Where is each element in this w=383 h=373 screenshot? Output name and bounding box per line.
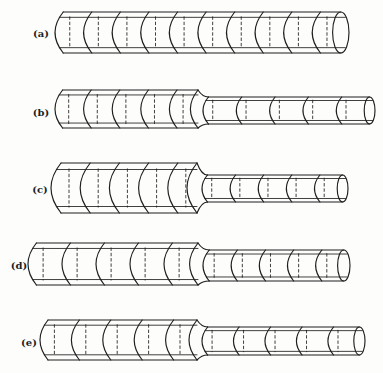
rod-c	[51, 163, 348, 213]
element-divider-arc	[203, 250, 209, 281]
row-label-c: (c)	[32, 184, 48, 195]
element-divider-arc	[80, 163, 90, 213]
step-shoulder-top	[198, 243, 209, 250]
rod-a-uniform-section	[55, 12, 349, 53]
element-divider-arc	[169, 12, 177, 53]
element-divider-arc	[284, 12, 292, 53]
row-labels: (a) (b) (c) (d) (e)	[11, 28, 49, 348]
step-shoulder-bottom	[198, 124, 208, 128]
element-divider-arc	[141, 90, 149, 128]
element-divider-arc	[265, 327, 271, 355]
rod-drawings	[28, 12, 375, 360]
element-divider-arc	[286, 175, 291, 202]
rod-e-thick-section	[40, 320, 197, 360]
rod-c-thick-section	[51, 163, 197, 213]
end-cap-ellipse	[338, 250, 350, 281]
element-divider-arc	[28, 243, 36, 285]
element-divider-arc	[51, 163, 61, 213]
element-divider-arc	[139, 163, 149, 213]
element-divider-arc	[130, 243, 138, 285]
element-divider-arc	[166, 320, 174, 360]
step-shoulder-bottom	[197, 202, 207, 213]
element-divider-arc	[62, 243, 70, 285]
element-divider-arc	[255, 12, 263, 53]
element-divider-arc	[328, 327, 334, 355]
element-divider-arc	[314, 175, 319, 202]
rod-b	[55, 90, 375, 128]
element-divider-arc	[71, 320, 79, 360]
element-divider-arc	[96, 243, 104, 285]
rod-c-thin-section	[197, 163, 348, 213]
row-label-b: (b)	[33, 107, 49, 118]
end-cap-ellipse	[333, 12, 349, 53]
step-shoulder-top	[198, 90, 208, 97]
step-closing-arc	[190, 90, 198, 128]
element-divider-arc	[296, 327, 302, 355]
element-divider-arc	[55, 12, 63, 53]
step-shoulder-top	[197, 163, 207, 175]
element-divider-arc	[109, 163, 119, 213]
element-divider-arc	[203, 97, 208, 124]
row-label-d: (d)	[11, 260, 27, 271]
step-shoulder-top	[197, 320, 208, 327]
end-cap-ellipse	[337, 175, 348, 202]
element-divider-arc	[202, 327, 208, 355]
rod-e-thin-section	[197, 320, 365, 360]
rod-d-thin-section	[198, 243, 350, 285]
end-cap-ellipse	[354, 327, 365, 355]
rod-a	[55, 12, 349, 53]
element-divider-arc	[270, 97, 275, 124]
row-label-a: (a)	[33, 28, 49, 39]
step-closing-arc	[187, 163, 197, 213]
element-divider-arc	[134, 320, 142, 360]
rod-d-thick-section	[28, 243, 198, 285]
element-divider-arc	[258, 175, 263, 202]
element-divider-arc	[236, 97, 241, 124]
step-shoulder-bottom	[198, 281, 209, 285]
element-divider-arc	[231, 250, 237, 281]
element-divider-arc	[230, 175, 235, 202]
element-divider-arc	[112, 12, 120, 53]
element-divider-arc	[233, 327, 239, 355]
row-label-e: (e)	[21, 337, 37, 348]
element-divider-arc	[198, 12, 206, 53]
element-divider-arc	[112, 90, 120, 128]
element-divider-arc	[164, 243, 172, 285]
end-cap-ellipse	[364, 97, 375, 124]
element-divider-arc	[287, 250, 293, 281]
element-divider-arc	[259, 250, 265, 281]
element-divider-arc	[316, 250, 322, 281]
rod-e	[40, 320, 365, 360]
element-divider-arc	[40, 320, 48, 360]
element-divider-arc	[169, 90, 177, 128]
element-divider-arc	[168, 163, 178, 213]
element-divider-arc	[303, 97, 308, 124]
element-divider-arc	[84, 12, 92, 53]
figure-canvas: (a) (b) (c) (d) (e)	[0, 0, 383, 373]
element-divider-arc	[202, 175, 207, 202]
element-divider-arc	[103, 320, 111, 360]
rod-b-thick-section	[55, 90, 198, 128]
element-divider-arc	[226, 12, 234, 53]
step-closing-arc	[189, 320, 197, 360]
stepped-shaft-diagram: (a) (b) (c) (d) (e)	[0, 0, 383, 373]
element-divider-arc	[312, 12, 320, 53]
step-shoulder-bottom	[197, 355, 208, 360]
element-divider-arc	[55, 90, 63, 128]
element-divider-arc	[141, 12, 149, 53]
element-divider-arc	[336, 97, 341, 124]
step-closing-arc	[190, 243, 198, 285]
rod-d	[28, 243, 350, 285]
rod-b-thin-section	[198, 90, 375, 128]
element-divider-arc	[84, 90, 92, 128]
